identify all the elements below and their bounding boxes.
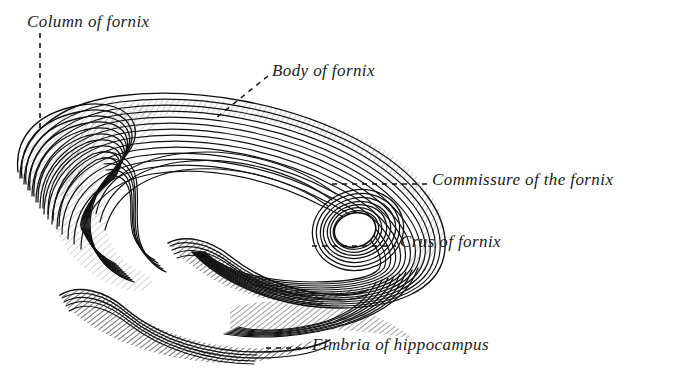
label-crus-of-fornix: Crus of fornix (400, 233, 501, 250)
label-fimbria-of-hippocampus: Fimbria of hippocampus (312, 336, 489, 353)
artist-signature: M.£8 (302, 292, 318, 302)
fornix-engraving (0, 0, 678, 383)
label-body-of-fornix: Body of fornix (272, 62, 375, 79)
label-commissure-of-the-fornix: Commissure of the fornix (432, 171, 613, 188)
label-column-of-fornix: Column of fornix (27, 13, 150, 30)
anatomical-figure-plate: Column of fornix Body of fornix Commissu… (0, 0, 678, 383)
column-of-fornix-hatching (0, 80, 200, 310)
